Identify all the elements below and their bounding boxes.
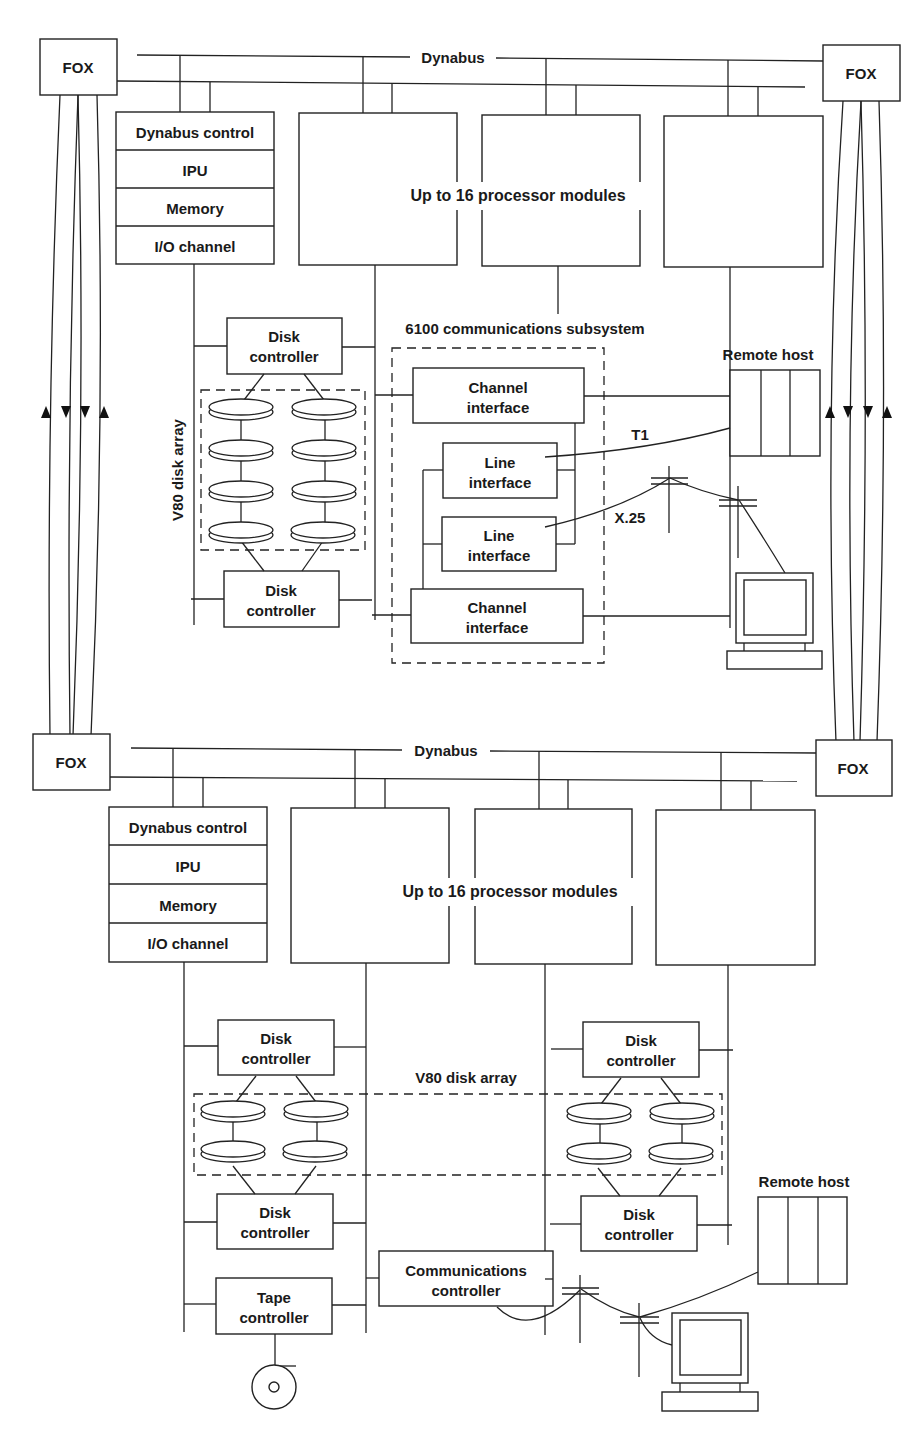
- comm-subsystem-6100: 6100 communications subsystem Channel in…: [372, 320, 730, 663]
- fox-node-bottom-left: FOX: [33, 734, 110, 790]
- svg-text:interface: interface: [469, 474, 532, 491]
- terminal-icon: [727, 573, 822, 669]
- svg-text:Disk: Disk: [268, 328, 300, 345]
- arrow-down-icon: [843, 406, 853, 418]
- svg-text:Disk: Disk: [623, 1206, 655, 1223]
- tandem-system-diagram: FOX FOX Dynabus: [0, 0, 914, 1430]
- bottom-system: FOX FOX Dynabus Dynabus control: [33, 734, 892, 1411]
- svg-text:Communications: Communications: [405, 1262, 527, 1279]
- processor-modules-label: Up to 16 processor modules: [410, 187, 625, 204]
- svg-text:Channel: Channel: [468, 379, 527, 396]
- dynabus-control-label: Dynabus control: [136, 124, 254, 141]
- t1-label: T1: [631, 426, 649, 443]
- ipu-label: IPU: [175, 858, 200, 875]
- svg-text:Line: Line: [484, 527, 515, 544]
- fox-fiber-links-right: [825, 101, 892, 742]
- communications-controller: Communications controller: [366, 1251, 553, 1306]
- processor-module-stack: Dynabus control IPU Memory I/O channel: [116, 112, 274, 264]
- svg-text:controller: controller: [604, 1226, 673, 1243]
- svg-text:Disk: Disk: [260, 1030, 292, 1047]
- ipu-label: IPU: [182, 162, 207, 179]
- remote-host-bottom: Remote host: [758, 1173, 849, 1284]
- remote-host-label: Remote host: [759, 1173, 850, 1190]
- comm-subsystem-label: 6100 communications subsystem: [405, 320, 644, 337]
- svg-text:controller: controller: [249, 348, 318, 365]
- arrow-up-icon: [41, 406, 51, 418]
- svg-text:controller: controller: [246, 602, 315, 619]
- left-disk-controller-top: Disk controller: [184, 1020, 366, 1075]
- dynabus-top: Dynabus: [117, 49, 823, 116]
- left-disk-controller-bottom: Disk controller: [184, 1194, 366, 1249]
- svg-text:Line: Line: [485, 454, 516, 471]
- v80-disk-array-bottom: V80 disk array: [194, 1069, 722, 1196]
- remote-host-label: Remote host: [723, 346, 814, 363]
- top-system: FOX FOX Dynabus: [40, 39, 900, 669]
- right-disk-controller-top: Disk controller: [551, 1022, 733, 1077]
- right-disk-controller-bottom: Disk controller: [550, 1196, 732, 1251]
- terminal-icon: [662, 1313, 758, 1411]
- processor-modules-bottom: Up to 16 processor modules: [291, 808, 815, 965]
- svg-text:Disk: Disk: [259, 1204, 291, 1221]
- arrow-up-icon: [825, 406, 835, 418]
- arrow-down-icon: [80, 406, 90, 418]
- dynabus-label: Dynabus: [414, 742, 477, 759]
- tape-reel-icon: [252, 1365, 296, 1409]
- v80-disk-array-top: V80 disk array: [169, 374, 365, 571]
- dynabus-bottom: Dynabus: [110, 742, 816, 810]
- processor-module-stack: Dynabus control IPU Memory I/O channel: [109, 807, 267, 962]
- memory-label: Memory: [166, 200, 224, 217]
- disk-array-label: V80 disk array: [169, 418, 186, 520]
- svg-text:interface: interface: [466, 619, 529, 636]
- fox-label: FOX: [63, 59, 94, 76]
- tape-controller: Tape controller: [184, 1278, 366, 1409]
- fox-node-top-left: FOX: [40, 39, 117, 95]
- memory-label: Memory: [159, 897, 217, 914]
- fox-label: FOX: [846, 65, 877, 82]
- svg-text:controller: controller: [239, 1309, 308, 1326]
- fox-label: FOX: [56, 754, 87, 771]
- svg-text:controller: controller: [431, 1282, 500, 1299]
- io-channel-label: I/O channel: [155, 238, 236, 255]
- svg-text:interface: interface: [468, 547, 531, 564]
- arrow-down-icon: [863, 406, 873, 418]
- svg-text:interface: interface: [467, 399, 530, 416]
- disk-icon: [201, 1101, 714, 1164]
- svg-text:Channel: Channel: [467, 599, 526, 616]
- fox-node-top-right: FOX: [823, 45, 900, 101]
- fox-fiber-links-left: [41, 95, 109, 736]
- svg-text:Tape: Tape: [257, 1289, 291, 1306]
- disk-icon: [209, 399, 356, 543]
- disk-controller-top: Disk controller: [194, 318, 375, 374]
- fox-label: FOX: [838, 760, 869, 777]
- remote-host-top: Remote host: [723, 346, 820, 456]
- svg-text:controller: controller: [606, 1052, 675, 1069]
- x25-label: X.25: [615, 509, 646, 526]
- dynabus-control-label: Dynabus control: [129, 819, 247, 836]
- disk-controller-bottom: Disk controller: [191, 571, 372, 627]
- io-channel-label: I/O channel: [148, 935, 229, 952]
- svg-text:Disk: Disk: [265, 582, 297, 599]
- dynabus-label: Dynabus: [421, 49, 484, 66]
- processor-modules-top: Up to 16 processor modules: [299, 113, 823, 267]
- svg-text:controller: controller: [241, 1050, 310, 1067]
- disk-array-label: V80 disk array: [415, 1069, 517, 1086]
- svg-text:Disk: Disk: [625, 1032, 657, 1049]
- svg-text:controller: controller: [240, 1224, 309, 1241]
- processor-modules-label: Up to 16 processor modules: [402, 883, 617, 900]
- fox-node-bottom-right: FOX: [816, 740, 892, 796]
